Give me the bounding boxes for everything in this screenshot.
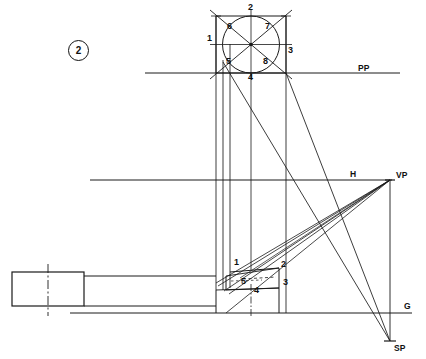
vanishing-point-rays <box>216 180 390 313</box>
plan-point-label-3: 3 <box>288 46 293 55</box>
slab-front-bottom <box>216 288 279 290</box>
sight-lines-to-sp <box>223 62 390 341</box>
figure-number: 2 <box>68 40 89 61</box>
horizon-label: H <box>350 170 356 179</box>
perspective-construction-drawing <box>0 0 426 359</box>
plan-point-label-6: 6 <box>227 22 232 31</box>
plan-point-label-2: 2 <box>248 3 253 12</box>
ground-line-label: G <box>404 302 411 311</box>
vp-ray-6 <box>240 180 390 278</box>
vanishing-point-label: VP <box>396 171 407 180</box>
vp-ray-4 <box>229 180 390 294</box>
drawing-canvas: 2 PP H VP G SP 1 2 3 4 5 6 7 8 1 2 3 4 5 <box>0 0 426 359</box>
vp-ray-2 <box>218 180 390 286</box>
perspective-point-label-5: 5 <box>241 277 246 286</box>
plan-center-point <box>249 43 253 47</box>
sight-line-from-point-5 <box>223 62 390 341</box>
plan-point-label-1: 1 <box>207 34 212 43</box>
plan-point-label-4: 4 <box>248 73 253 82</box>
box-hidden-edge-b <box>231 280 262 281</box>
perspective-point-label-3: 3 <box>283 278 288 287</box>
station-point-label: SP <box>394 344 405 353</box>
vp-sp-vertical <box>384 180 396 341</box>
perspective-point-label-4: 4 <box>254 286 259 295</box>
plan-point-label-8: 8 <box>263 57 268 66</box>
plan-point-label-7: 7 <box>265 22 270 31</box>
perspective-point-label-2: 2 <box>281 260 286 269</box>
plan-object-group <box>12 264 216 316</box>
plan-view-group <box>210 10 292 79</box>
plan-point-label-5: 5 <box>226 57 231 66</box>
picture-plane-label: PP <box>358 64 369 73</box>
perspective-point-label-1: 1 <box>234 258 239 267</box>
box-hidden-edge-a <box>243 277 276 279</box>
sight-line-from-point-4 <box>286 73 390 341</box>
